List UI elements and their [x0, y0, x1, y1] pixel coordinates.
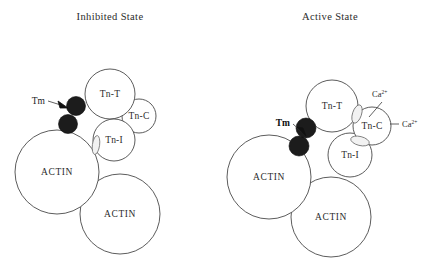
tn-c-label: Tn-C: [129, 111, 150, 121]
actin-upper-label: ACTIN: [41, 167, 73, 177]
ca-ion-top-superscript: 2+: [381, 89, 387, 95]
actin-lower-label-active: ACTIN: [315, 212, 347, 222]
tm-blob-upper: [67, 97, 86, 116]
tn-i-label-active: Tn-I: [341, 150, 359, 160]
tm-label-active: Tm: [276, 118, 290, 128]
ca-ion-right-superscript: 2+: [411, 119, 417, 125]
ca-ion-right-base: Ca: [402, 119, 412, 129]
tn-c-label-active: Tn-C: [362, 121, 383, 131]
actin-lower-label: ACTIN: [104, 209, 136, 219]
tn-t-label-active: Tn-T: [322, 101, 342, 111]
tm-blob-lower: [59, 115, 78, 134]
tm-label: Tm: [32, 96, 46, 106]
panel-title-inhibited: Inhibited State: [77, 11, 144, 22]
ca-ion-top-base: Ca: [372, 89, 382, 99]
panel-title-active: Active State: [302, 11, 358, 22]
tn-i-label: Tn-I: [105, 135, 123, 145]
tn-t-label: Tn-T: [100, 89, 120, 99]
tm-blob-lower-active: [289, 136, 309, 156]
thin-filament-regulation-diagram: Inhibited State ACTIN ACTIN Tn-C Tn-T Tn…: [0, 0, 429, 272]
actin-upper-label-active: ACTIN: [253, 172, 285, 182]
